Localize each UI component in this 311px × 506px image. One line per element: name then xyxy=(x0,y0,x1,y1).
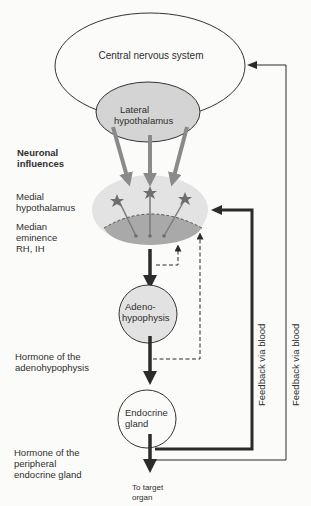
hormone-peripheral-label: Hormone of the peripheral endocrine glan… xyxy=(14,447,82,480)
endocrine-gland-line2: gland xyxy=(125,418,175,429)
medial-line1: Medial xyxy=(16,191,75,202)
hormone-peripheral-line3: endocrine gland xyxy=(14,469,82,480)
hormone-peripheral-line1: Hormone of the xyxy=(14,447,82,458)
hormone-adeno-line2: adenohypophysis xyxy=(15,362,89,373)
feedback-thin-arrowhead xyxy=(247,61,257,69)
hormone-adeno-label: Hormone of the adenohypophysis xyxy=(15,351,89,373)
adenohypophysis-label: Adeno- hypophysis xyxy=(122,301,178,323)
medial-line2: hypothalamus xyxy=(16,202,75,213)
endocrine-gland-line1: Endocrine xyxy=(125,407,175,418)
neuronal-line2: influences xyxy=(17,158,64,169)
feedback-outer-label: Feedback via blood xyxy=(290,324,301,406)
endocrine-gland-label: Endocrine gland xyxy=(125,407,175,429)
lateral-hypothalamus-line1: Lateral xyxy=(114,104,182,115)
neuronal-line1: Neuronal xyxy=(17,147,64,158)
hormone-adeno-line1: Hormone of the xyxy=(15,351,89,362)
cns-label: Central nervous system xyxy=(98,50,204,61)
lateral-hypothalamus-line2: hypothalamus xyxy=(114,115,182,126)
median-eminence-label: Median eminence RH, IH xyxy=(16,221,57,254)
adenohypophysis-line2: hypophysis xyxy=(122,312,178,323)
hormone-peripheral-line2: peripheral xyxy=(14,458,82,469)
median-line1: Median xyxy=(16,221,57,232)
median-line3: RH, IH xyxy=(16,243,57,254)
target-organ-label: To target organ xyxy=(132,483,163,503)
neuronal-influences-label: Neuronal influences xyxy=(17,147,64,169)
target-line2: organ xyxy=(132,493,163,503)
adenohypophysis-line1: Adeno- xyxy=(122,301,178,312)
lateral-hypothalamus-label: Lateral hypothalamus xyxy=(114,104,182,126)
feedback-thick-arrowhead xyxy=(211,205,222,215)
medial-hypothalamus-label: Medial hypothalamus xyxy=(16,191,75,213)
feedback-inner-label: Feedback via blood xyxy=(256,324,267,406)
short-loop-dashed-arrow xyxy=(156,248,178,265)
median-line2: eminence xyxy=(16,232,57,243)
target-line1: To target xyxy=(132,483,163,493)
